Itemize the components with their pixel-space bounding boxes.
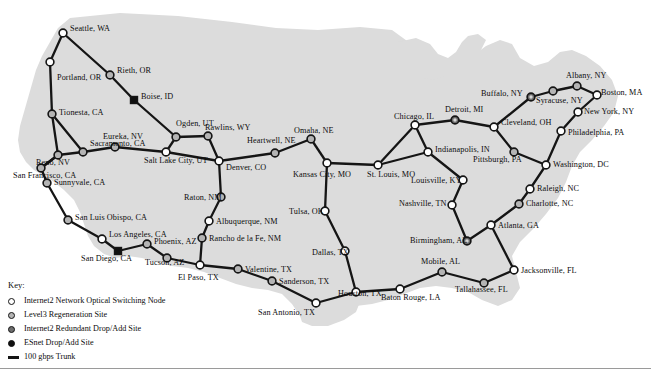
city-label-washington: Washington, DC (553, 161, 609, 169)
map-node-detroit-core (453, 118, 456, 121)
city-label-dallas: Dallas, TX (312, 249, 349, 257)
city-label-tallahassee: Tallahassee, FL (455, 286, 508, 294)
light-grey-circle-icon-glyph (8, 312, 15, 319)
map-node-portland[interactable] (46, 58, 54, 66)
map-node-albuquerque[interactable] (205, 217, 213, 225)
light-grey-circle-icon (8, 312, 24, 319)
city-label-birmingham: Birmingham, AL (410, 237, 467, 245)
city-label-reno: Reno, NV (36, 159, 70, 167)
map-node-indianapolis[interactable] (424, 148, 432, 156)
legend-item-label: Internet2 Network Optical Switching Node (24, 297, 165, 305)
map-node-nashville[interactable] (448, 201, 456, 209)
city-label-philadelphia: Philadelphia, PA (568, 129, 624, 137)
city-label-chicago: Chicago, IL (394, 113, 434, 121)
map-node-batonrouge[interactable] (396, 285, 404, 293)
map-node-losangeles[interactable] (98, 235, 106, 243)
city-label-sacramento: Sacramento, CA (90, 140, 146, 148)
city-label-saltlakecity: Salt Lake City, UT (144, 157, 208, 165)
city-label-phoenix: Phoenix, AZ (154, 238, 197, 246)
city-label-sunnyvale: Sunnyvale, CA (54, 179, 105, 187)
city-label-louisville: Louisville, KY (411, 177, 462, 185)
map-node-chicago[interactable] (411, 121, 419, 129)
city-label-boise: Boise, ID (141, 93, 173, 101)
map-node-mobile[interactable] (438, 268, 446, 276)
city-label-atlanta: Atlanta, GA (498, 222, 539, 230)
map-node-cleveland[interactable] (490, 123, 498, 131)
city-label-omaha: Omaha, NE (294, 127, 334, 135)
map-node-ranchodelafe[interactable] (198, 234, 206, 242)
city-label-jacksonville: Jacksonville, FL (521, 267, 577, 275)
city-label-nashville: Nashville, TN (399, 200, 447, 208)
map-node-boston[interactable] (593, 91, 601, 99)
trunk-link (176, 136, 208, 137)
map-node-tionesta[interactable] (48, 110, 56, 118)
bottom-divider (0, 368, 651, 369)
city-label-rawlins: Rawlins, WY (205, 124, 251, 132)
dark-grey-circle-icon (8, 326, 24, 333)
city-label-seattle: Seattle, WA (70, 25, 110, 33)
city-label-ranchodelafe: Rancho de la Fe, NM (209, 235, 281, 243)
filled-black-circle-icon-glyph (8, 340, 15, 347)
legend-item-redundant: Internet2 Redundant Drop/Add Site (8, 323, 258, 336)
city-label-buffalo: Buffalo, NY (481, 90, 523, 98)
legend: Key: Internet2 Network Optical Switching… (8, 281, 258, 365)
map-node-stlouis[interactable] (374, 161, 382, 169)
map-node-phoenix[interactable] (143, 240, 151, 248)
city-label-batonrouge: Baton Rouge, LA (381, 294, 441, 302)
map-node-sacramento[interactable] (79, 148, 87, 156)
city-label-sanantonio: San Antonio, TX (258, 309, 315, 317)
map-node-charlotte[interactable] (515, 200, 523, 208)
city-label-houston: Houston, TX (338, 290, 382, 298)
map-node-sanantonio[interactable] (312, 299, 320, 307)
map-node-valentine[interactable] (234, 265, 242, 273)
thick-line-icon (8, 356, 24, 359)
map-node-ogden[interactable] (172, 133, 180, 141)
map-node-boise[interactable] (131, 97, 138, 104)
thick-line-icon-glyph (8, 356, 19, 359)
city-label-stlouis: St. Louis, MO (367, 171, 415, 179)
city-label-syracuse: Syracuse, NY (536, 97, 583, 105)
city-label-tulsa: Tulsa, OK (289, 208, 324, 216)
filled-black-circle-icon (8, 340, 24, 347)
city-label-valentine: Valentine, TX (245, 266, 292, 274)
map-node-atlanta[interactable] (487, 221, 495, 229)
city-label-detroit: Detroit, MI (445, 106, 483, 114)
legend-item-label: 100 gbps Trunk (24, 353, 75, 361)
map-node-albany[interactable] (573, 82, 581, 90)
city-label-pittsburgh: Pittsburgh, PA (473, 156, 522, 164)
city-label-sandiego: San Diego, CA (81, 255, 132, 263)
map-node-denver[interactable] (215, 157, 223, 165)
legend-item-label: Internet2 Redundant Drop/Add Site (24, 325, 141, 333)
map-node-rieth[interactable] (106, 71, 114, 79)
legend-item-label: ESnet Drop/Add Site (24, 339, 94, 347)
map-node-sanderson[interactable] (268, 277, 276, 285)
map-node-saltlakecity[interactable] (162, 148, 170, 156)
map-node-washington[interactable] (542, 161, 550, 169)
map-node-philadelphia[interactable] (557, 127, 565, 135)
map-node-heartwell[interactable] (271, 149, 279, 157)
open-circle-icon (8, 298, 24, 305)
map-node-rawlins[interactable] (204, 132, 212, 140)
map-node-sunnyvale[interactable] (43, 179, 51, 187)
legend-item-trunk: 100 gbps Trunk (8, 351, 258, 364)
map-node-jacksonville[interactable] (510, 266, 518, 274)
city-label-tucson: Tucson, AZ (145, 259, 184, 267)
city-label-albany: Albany, NY (566, 72, 607, 80)
city-label-newyork: New York, NY (584, 108, 634, 116)
us-landmass-shape (18, 13, 618, 322)
city-label-rieth: Rieth, OR (117, 67, 151, 75)
city-label-cleveland: Cleveland, OH (501, 119, 551, 127)
map-node-syracuse[interactable] (549, 87, 557, 95)
city-label-sanluisobispo: San Luis Obispo, CA (75, 214, 147, 222)
city-label-denver: Denver, CO (226, 164, 266, 172)
map-node-raleigh[interactable] (526, 185, 534, 193)
map-node-kansascity[interactable] (323, 159, 331, 167)
map-node-newyork[interactable] (574, 108, 582, 116)
map-node-omaha[interactable] (307, 135, 315, 143)
map-node-buffalo-core (529, 95, 532, 98)
map-node-elpaso[interactable] (196, 261, 204, 269)
map-node-seattle[interactable] (59, 29, 67, 37)
map-node-sanluisobispo[interactable] (64, 216, 72, 224)
legend-item-regeneration: Level3 Regeneration Site (8, 309, 258, 322)
city-label-portland: Portland, OR (57, 74, 101, 82)
